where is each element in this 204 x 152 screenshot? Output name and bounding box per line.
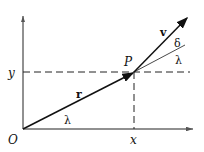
v-label: v: [159, 26, 167, 39]
lambda-p-label: λ: [175, 54, 182, 67]
y-label: y: [7, 66, 15, 80]
lambda-origin-label: λ: [64, 114, 71, 127]
delta-label: δ: [174, 37, 181, 50]
r-label: r: [76, 88, 82, 101]
origin-label: O: [8, 133, 18, 147]
x-label: x: [130, 133, 137, 147]
position-vector-r: [23, 73, 133, 129]
point-p-label: P: [123, 55, 133, 69]
vector-diagram: O x y P r v λ λ δ: [0, 0, 204, 152]
